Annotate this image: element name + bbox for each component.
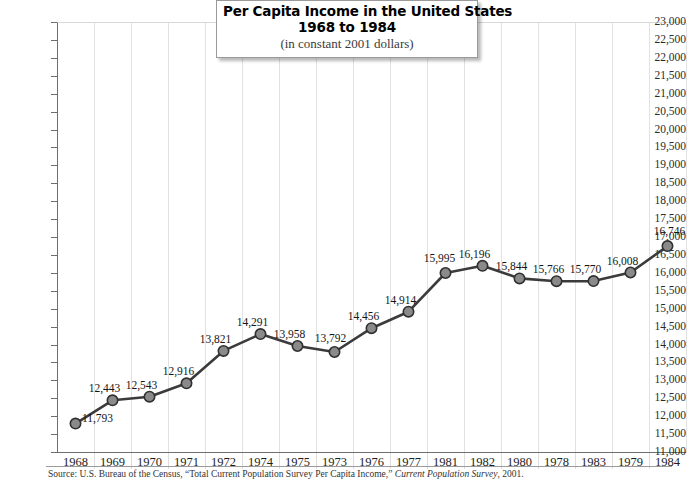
gridline-vertical: [390, 23, 391, 453]
y-axis-tick-mark: [51, 362, 57, 363]
x-axis-line: [57, 452, 686, 453]
y-axis-tick-mark: [51, 416, 57, 417]
y-axis-tick-mark: [51, 380, 57, 381]
y-axis-tick-label: 16,500: [636, 249, 686, 261]
y-axis-tick-mark: [51, 201, 57, 202]
y-axis-tick-label: 21,000: [636, 88, 686, 100]
y-axis-tick-mark: [51, 273, 57, 274]
data-point-label: 14,914: [381, 295, 421, 307]
source-publication: Current Population Survey: [395, 469, 498, 479]
gridline-vertical: [464, 23, 465, 453]
data-point-label: 14,291: [233, 317, 273, 329]
y-axis-tick-mark: [51, 40, 57, 41]
data-point-label: 13,821: [196, 334, 236, 346]
y-axis-tick-mark: [51, 398, 57, 399]
y-axis-tick-label: 19,000: [636, 159, 686, 171]
chart-subtitle: (in constant 2001 dollars): [223, 36, 471, 52]
gridline-vertical: [612, 23, 613, 453]
y-axis-tick-label: 13,500: [636, 356, 686, 368]
y-axis-tick-label: 13,000: [636, 374, 686, 386]
data-point-label: 14,456: [344, 311, 384, 323]
y-axis-tick-mark: [51, 147, 57, 148]
y-axis-tick-mark: [51, 345, 57, 346]
y-axis-tick-mark: [51, 327, 57, 328]
y-axis-tick-label: 15,500: [636, 285, 686, 297]
source-note: Source: U.S. Bureau of the Census, “Tota…: [48, 469, 524, 480]
y-axis-tick-mark: [51, 58, 57, 59]
y-axis-tick-label: 22,000: [636, 52, 686, 64]
y-axis-tick-mark: [51, 434, 57, 435]
y-axis-tick-label: 23,000: [636, 16, 686, 28]
chart-title-line2: 1968 to 1984: [223, 20, 471, 36]
y-axis-tick-label: 14,000: [636, 339, 686, 351]
y-axis-tick-mark: [51, 76, 57, 77]
y-axis-tick-label: 17,500: [636, 213, 686, 225]
chart-title-line1: Per Capita Income in the United States: [223, 4, 471, 20]
y-axis-tick-label: 20,000: [636, 124, 686, 136]
data-point-label: 13,792: [311, 333, 351, 345]
gridline-vertical: [279, 23, 280, 453]
gridline-vertical: [205, 23, 206, 453]
data-point-label: 12,443: [85, 383, 125, 395]
gridline-vertical: [501, 23, 502, 453]
source-divider: [46, 466, 672, 467]
y-axis-tick-label: 15,000: [636, 303, 686, 315]
y-axis-tick-mark: [51, 165, 57, 166]
gridline-vertical: [686, 23, 687, 453]
y-axis-tick-label: 11,500: [636, 428, 686, 440]
y-axis-tick-label: 18,000: [636, 195, 686, 207]
data-point-label: 15,766: [529, 264, 569, 276]
y-axis-tick-label: 16,000: [636, 267, 686, 279]
data-point-label: 16,008: [603, 256, 643, 268]
y-axis-tick-mark: [51, 255, 57, 256]
y-axis-tick-mark: [51, 22, 57, 23]
y-axis-tick-label: 12,000: [636, 410, 686, 422]
y-axis-tick-mark: [51, 94, 57, 95]
data-point-label: 15,770: [566, 264, 606, 276]
y-axis-tick-label: 12,500: [636, 392, 686, 404]
y-axis-tick-mark: [51, 130, 57, 131]
data-point-label: 12,543: [122, 380, 162, 392]
y-axis-tick-label: 14,500: [636, 321, 686, 333]
y-axis-tick-mark: [51, 237, 57, 238]
gridline-vertical: [242, 23, 243, 453]
y-axis-tick-label: 21,500: [636, 70, 686, 82]
y-axis-tick-mark: [51, 291, 57, 292]
gridline-vertical: [427, 23, 428, 453]
y-axis-tick-label: 19,500: [636, 141, 686, 153]
y-axis-tick-label: 18,500: [636, 177, 686, 189]
y-axis-tick-label: 22,500: [636, 34, 686, 46]
y-axis-tick-mark: [51, 219, 57, 220]
data-point-label: 15,995: [420, 253, 460, 265]
source-prefix: Source: U.S. Bureau of the Census, “Tota…: [48, 469, 395, 479]
gridline-vertical: [316, 23, 317, 453]
data-point-label: 16,746: [650, 226, 690, 238]
source-suffix: , 2001.: [497, 469, 523, 479]
gridline-vertical: [168, 23, 169, 453]
y-axis-tick-mark: [51, 183, 57, 184]
data-point-label: 15,844: [492, 261, 532, 273]
gridline-vertical: [575, 23, 576, 453]
data-point-label: 12,916: [159, 366, 199, 378]
y-axis-tick-mark: [51, 452, 57, 453]
y-axis-tick-mark: [51, 309, 57, 310]
y-axis-tick-label: 20,500: [636, 106, 686, 118]
data-point-label: 11,793: [78, 413, 118, 425]
gridline-vertical: [353, 23, 354, 453]
gridline-vertical: [538, 23, 539, 453]
chart-title-box: Per Capita Income in the United States 1…: [216, 0, 478, 58]
y-axis-tick-mark: [51, 112, 57, 113]
data-point-label: 13,958: [270, 329, 310, 341]
data-point-label: 16,196: [455, 249, 495, 261]
